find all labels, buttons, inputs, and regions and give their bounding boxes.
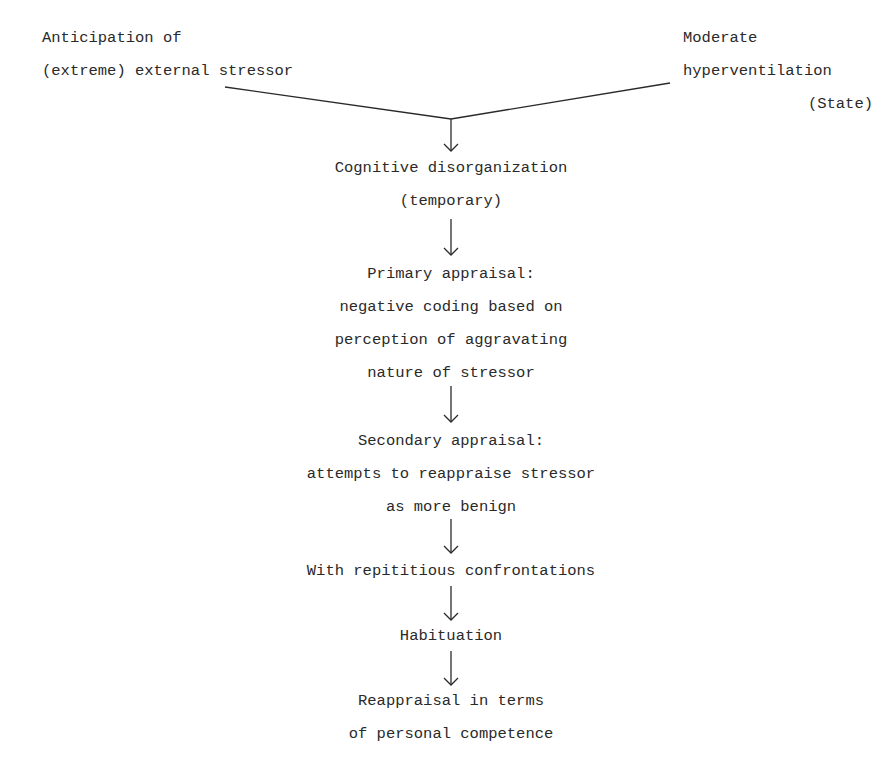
step-6-line-1: Reappraisal in terms	[241, 685, 661, 718]
step-repetitious-confrontations: With repititious confrontations	[241, 555, 661, 588]
arrow-down-icon	[443, 219, 459, 257]
step-reappraisal-competence: Reappraisal in terms of personal compete…	[241, 685, 661, 751]
arrow-down-icon	[443, 586, 459, 622]
step-2-line-3: perception of aggravating	[241, 324, 661, 357]
step-3-line-2: attempts to reappraise stressor	[241, 458, 661, 491]
arrow-down-icon	[443, 519, 459, 555]
step-2-line-2: negative coding based on	[241, 291, 661, 324]
connector-right-line	[451, 83, 670, 119]
step-2-line-1: Primary appraisal:	[241, 258, 661, 291]
connector-left-line	[225, 87, 451, 119]
arrow-down-icon	[443, 386, 459, 424]
step-1-line-1: Cognitive disorganization	[241, 152, 661, 185]
step-1-line-2: (temporary)	[241, 185, 661, 218]
step-6-line-2: of personal competence	[241, 718, 661, 751]
step-5-line-1: Habituation	[241, 620, 661, 653]
step-cognitive-disorganization: Cognitive disorganization (temporary)	[241, 152, 661, 218]
step-habituation: Habituation	[241, 620, 661, 653]
step-primary-appraisal: Primary appraisal: negative coding based…	[241, 258, 661, 390]
converging-connector	[0, 0, 894, 160]
arrow-down-icon	[443, 651, 459, 687]
step-secondary-appraisal: Secondary appraisal: attempts to reappra…	[241, 425, 661, 524]
step-3-line-1: Secondary appraisal:	[241, 425, 661, 458]
step-4-line-1: With repititious confrontations	[241, 555, 661, 588]
